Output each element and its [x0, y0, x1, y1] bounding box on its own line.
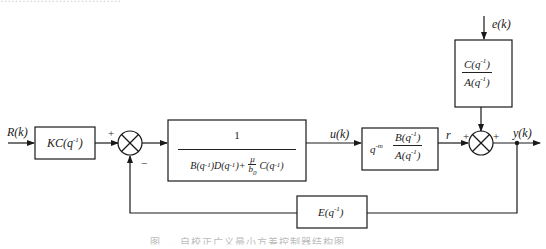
prefilter-block-label: KC(q-1)	[47, 137, 83, 149]
sum2-plus-left-sign: +	[463, 131, 469, 142]
sum2-plus-top-sign: +	[493, 131, 499, 142]
noise-signal-label: e(k)	[492, 18, 511, 30]
intermediate-signal-label: r	[446, 129, 451, 141]
sum1-plus-sign: +	[108, 128, 114, 139]
control-signal-label: u(k)	[330, 128, 349, 140]
feedback-block-label: E(q-1)	[318, 206, 343, 218]
figure-caption: 图 … 自校正广义最小方差控制器结构图	[150, 234, 345, 249]
controller-transfer-function: 1 B(q-1)D(q-1)+ μ b0 C(q-1)	[178, 130, 296, 177]
plant-transfer-function: B(q-1) A(q-1)	[393, 131, 422, 161]
output-signal-label: y(k)	[513, 127, 532, 139]
noise-filter-transfer-function: C(q-1) A(q-1)	[462, 58, 492, 88]
sum1-minus-sign: −	[141, 158, 147, 169]
plant-delay-label: q-m	[370, 143, 383, 155]
input-signal-label: R(k)	[7, 126, 28, 138]
